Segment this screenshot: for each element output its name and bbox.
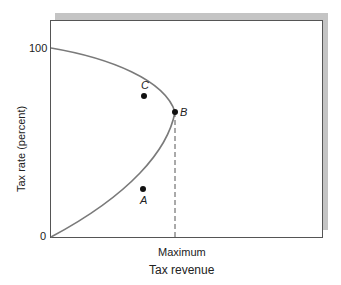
point-a-marker — [140, 186, 146, 192]
x-axis-label: Tax revenue — [149, 263, 214, 277]
plot-frame — [51, 21, 323, 238]
point-b-label: B — [180, 106, 187, 118]
chart-canvas — [0, 0, 341, 285]
point-c-label: C — [141, 79, 149, 91]
y-tick-0: 0 — [40, 230, 46, 242]
y-tick-100: 100 — [29, 42, 47, 54]
x-tick-maximum: Maximum — [158, 246, 206, 258]
point-c-marker — [141, 93, 147, 99]
y-axis-label: Tax rate (percent) — [15, 106, 27, 192]
point-b-marker — [172, 109, 178, 115]
frame-shadow-top — [55, 13, 328, 20]
point-a-label: A — [140, 194, 147, 206]
